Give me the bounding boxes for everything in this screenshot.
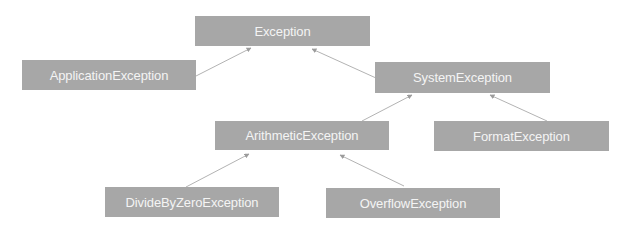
node-application-exception: ApplicationException [22,60,196,90]
node-arithmetic-exception: ArithmeticException [215,121,389,150]
edge-overflow-to-arithmetic-arrow-icon [340,155,404,186]
node-system-exception: SystemException [375,62,550,93]
node-divide-by-zero-exception-label: DivideByZeroException [125,195,258,210]
node-application-exception-label: ApplicationException [50,68,169,83]
node-exception-label: Exception [254,24,310,39]
edge-arithmetic-to-system-arrow-icon [362,95,412,121]
node-divide-by-zero-exception: DivideByZeroException [105,187,279,217]
edge-dividebyzero-to-arithmetic-arrow-icon [186,154,249,187]
edge-format-to-system-arrow-icon [490,95,547,121]
node-exception: Exception [195,16,370,46]
node-format-exception: FormatException [434,121,609,151]
node-system-exception-label: SystemException [413,70,512,85]
edge-application-to-exception-arrow-icon [196,48,251,76]
node-arithmetic-exception-label: ArithmeticException [246,128,359,143]
node-overflow-exception: OverflowException [326,188,500,218]
edge-system-to-exception-arrow-icon [312,49,376,78]
exception-hierarchy-diagram: Exception ApplicationException SystemExc… [0,0,621,233]
node-format-exception-label: FormatException [473,129,570,144]
node-overflow-exception-label: OverflowException [360,196,467,211]
